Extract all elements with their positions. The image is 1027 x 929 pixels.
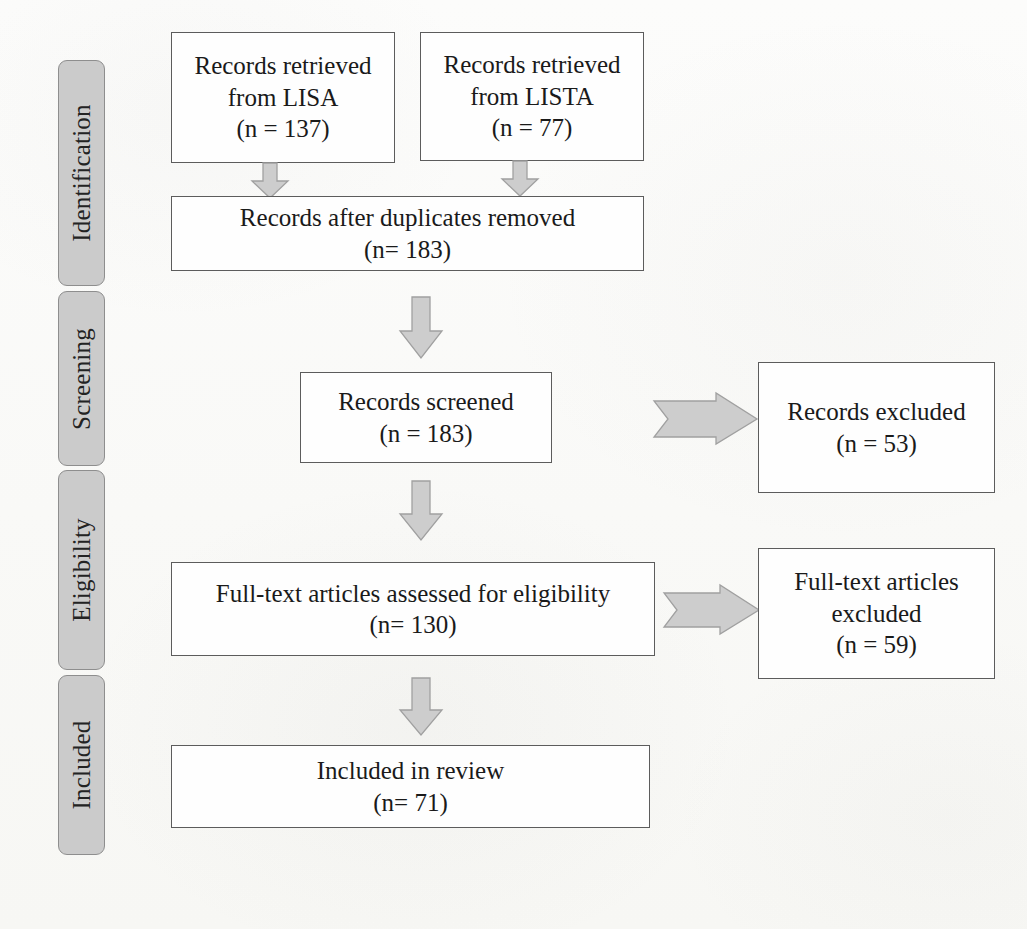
box-records-screened: Records screened (n = 183) <box>300 372 552 463</box>
box-records-excluded-line1: Records excluded <box>787 396 965 428</box>
prisma-flow-diagram: Identification Screening Eligibility Inc… <box>0 0 1027 929</box>
stage-identification: Identification <box>58 60 105 286</box>
box-duplicates-removed-count: (n= 183) <box>364 234 451 266</box>
box-fulltext-excluded-count: (n = 59) <box>836 629 917 661</box>
box-fulltext-excluded-line2: excluded <box>831 598 921 630</box>
box-records-lista-line1: Records retrieved <box>443 49 620 81</box>
box-records-screened-count: (n = 183) <box>379 418 472 450</box>
box-records-lisa-count: (n = 137) <box>236 113 329 145</box>
stage-included-label: Included <box>68 720 96 809</box>
box-records-lisa-line1: Records retrieved <box>194 50 371 82</box>
box-included-in-review-count: (n= 71) <box>373 787 448 819</box>
arrow-lisa-to-duplicates-icon <box>250 163 290 199</box>
box-records-excluded-count: (n = 53) <box>836 428 917 460</box>
box-records-retrieved-lisa: Records retrieved from LISA (n = 137) <box>171 32 395 163</box>
arrow-screened-to-fulltext-icon <box>398 481 444 541</box>
arrow-lista-to-duplicates-icon <box>500 161 540 197</box>
box-fulltext-assessed: Full-text articles assessed for eligibil… <box>171 562 655 656</box>
arrow-fulltext-to-excluded-icon <box>664 585 760 635</box>
box-included-in-review-line1: Included in review <box>317 755 504 787</box>
box-records-lista-count: (n = 77) <box>492 112 573 144</box>
box-duplicates-removed: Records after duplicates removed (n= 183… <box>171 196 644 271</box>
stage-screening-label: Screening <box>68 328 96 430</box>
box-records-retrieved-lista: Records retrieved from LISTA (n = 77) <box>420 32 644 161</box>
box-fulltext-excluded-line1: Full-text articles <box>794 566 959 598</box>
box-duplicates-removed-line1: Records after duplicates removed <box>240 202 575 234</box>
box-fulltext-assessed-line1: Full-text articles assessed for eligibil… <box>216 578 610 610</box>
stage-identification-label: Identification <box>68 104 96 241</box>
stage-included: Included <box>58 675 105 855</box>
box-included-in-review: Included in review (n= 71) <box>171 745 650 828</box>
box-fulltext-excluded: Full-text articles excluded (n = 59) <box>758 548 995 679</box>
stage-screening: Screening <box>58 291 105 466</box>
box-records-lisa-line2: from LISA <box>228 82 338 114</box>
box-records-screened-line1: Records screened <box>338 386 514 418</box>
box-records-excluded: Records excluded (n = 53) <box>758 362 995 493</box>
arrow-fulltext-to-included-icon <box>398 678 444 736</box>
stage-eligibility-label: Eligibility <box>68 518 96 622</box>
box-fulltext-assessed-count: (n= 130) <box>370 609 457 641</box>
arrow-screened-to-excluded-icon <box>654 393 758 445</box>
box-records-lista-line2: from LISTA <box>470 81 594 113</box>
stage-eligibility: Eligibility <box>58 470 105 670</box>
arrow-duplicates-to-screened-icon <box>398 297 444 359</box>
